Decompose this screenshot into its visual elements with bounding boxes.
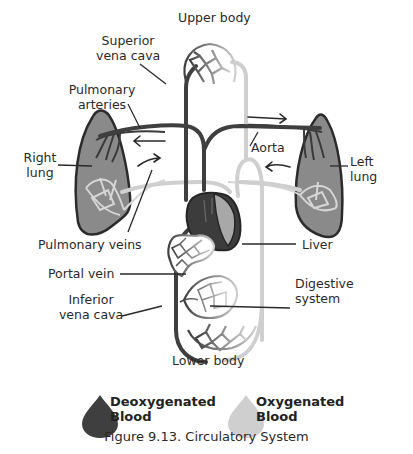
circulatory-system-figure: Upper body Superior vena cava Pulmonary … [0, 0, 413, 454]
label-aorta: Aorta [251, 140, 285, 155]
legend-label-line: Blood [110, 409, 216, 424]
arrow-right-icon [138, 154, 160, 166]
legend-deoxygenated: Deoxygenated Blood [110, 394, 216, 424]
label-liver: Liver [302, 237, 333, 252]
liver [168, 235, 214, 276]
arrow-left-icon [134, 136, 165, 146]
legend-label-line: Oxygenated [256, 394, 344, 409]
label-line: vena cava [96, 48, 160, 63]
label-digestive-system: Digestive system [295, 276, 354, 306]
label-left-lung: Left lung [350, 154, 377, 184]
label-inferior-vena-cava: Inferior vena cava [58, 292, 124, 322]
label-line: Digestive [295, 276, 354, 291]
figure-caption: Figure 9.13. Circulatory System [0, 429, 413, 444]
arrow-right-icon [248, 114, 286, 123]
label-superior-vena-cava: Superior vena cava [96, 33, 160, 63]
legend-oxygenated: Oxygenated Blood [256, 394, 344, 424]
label-line: Inferior [58, 292, 124, 307]
label-line: system [295, 291, 354, 306]
label-pulmonary-veins: Pulmonary veins [38, 237, 142, 252]
label-right-lung: Right lung [20, 150, 60, 180]
circulatory-diagram [0, 0, 413, 454]
label-line: vena cava [58, 307, 124, 322]
legend-label-line: Blood [256, 409, 344, 424]
upper-body-capillaries [184, 44, 235, 84]
label-line: Pulmonary [66, 82, 138, 97]
legend-label-line: Deoxygenated [110, 394, 216, 409]
label-line: Right [20, 150, 60, 165]
label-lower-body: Lower body [172, 353, 244, 368]
label-portal-vein: Portal vein [48, 266, 114, 281]
label-upper-body: Upper body [178, 10, 251, 25]
label-line: arteries [66, 97, 138, 112]
label-line: lung [20, 165, 60, 180]
label-line: lung [350, 169, 377, 184]
lower-body-capillaries [188, 324, 256, 350]
label-line: Superior [96, 33, 160, 48]
label-line: Left [350, 154, 377, 169]
arrow-left-icon [266, 162, 290, 171]
label-pulmonary-arteries: Pulmonary arteries [66, 82, 138, 112]
digestive-system [180, 276, 237, 318]
